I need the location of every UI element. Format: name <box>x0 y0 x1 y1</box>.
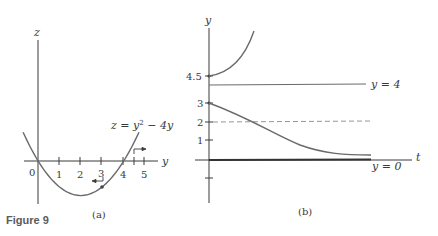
parabola-curve <box>23 132 139 195</box>
b-y-axis-label: y <box>204 14 212 27</box>
caption-b: (b) <box>298 206 312 217</box>
equation-label: z = y2 − 4y <box>110 119 174 132</box>
tick-1-b: 1 <box>197 135 203 146</box>
tick-2: 2 <box>77 169 83 180</box>
z-axis-label: z <box>33 26 40 39</box>
tick-4: 4 <box>120 169 126 180</box>
panel-b: y t 4.5 3 2 1 y = 4 y = 0 (b) <box>186 14 421 217</box>
equilibrium-y0 <box>209 160 371 161</box>
tick-1: 1 <box>56 169 62 180</box>
dashed-y2 <box>213 121 373 122</box>
equilibrium-y4 <box>209 84 366 85</box>
caption-a: (a) <box>92 209 106 220</box>
right-arrow-icon <box>134 147 146 154</box>
label-y0: y = 0 <box>371 160 401 173</box>
tick-3-b: 3 <box>197 98 203 109</box>
solution-curve-upper <box>209 31 254 76</box>
tick-0: 0 <box>29 167 35 178</box>
y-axis-label: y <box>161 155 169 168</box>
panel-a: z y 0 1 2 3 4 5 <box>23 26 174 220</box>
tick-2-b: 2 <box>197 117 203 128</box>
tick-5: 5 <box>141 169 147 180</box>
solution-curve-lower <box>209 103 371 155</box>
tick-4-5: 4.5 <box>186 71 202 82</box>
label-y4: y = 4 <box>370 78 400 91</box>
figure-label: Figure 9 <box>6 214 49 226</box>
t-axis-label: t <box>416 151 421 164</box>
figure-canvas: z y 0 1 2 3 4 5 <box>0 0 438 236</box>
point-y3 <box>100 185 104 189</box>
